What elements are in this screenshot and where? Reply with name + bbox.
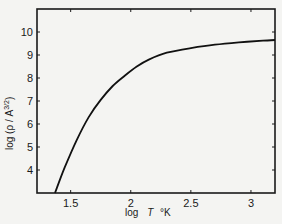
x-tick-label: 1.5 [63, 197, 78, 209]
y-axis-ticks: 45678910 [21, 26, 275, 176]
x-axis-ticks: 1.522.53 [63, 9, 254, 209]
y-tick-label: 7 [27, 95, 33, 107]
y-tick-label: 8 [27, 72, 33, 84]
y-axis-label: log (ρ / A3/2) [3, 97, 15, 150]
x-tick-label: 3 [248, 197, 254, 209]
data-curve [55, 40, 275, 193]
y-tick-label: 10 [21, 26, 33, 38]
x-axis-label: log T °K [125, 207, 171, 218]
y-tick-label: 6 [27, 118, 33, 130]
plot-frame [37, 9, 275, 193]
chart: 1.522.53 45678910 log T °K log (ρ / A3/2… [0, 0, 282, 224]
y-tick-label: 4 [27, 164, 33, 176]
y-tick-label: 5 [27, 141, 33, 153]
y-tick-label: 9 [27, 49, 33, 61]
x-tick-label: 2.5 [183, 197, 198, 209]
